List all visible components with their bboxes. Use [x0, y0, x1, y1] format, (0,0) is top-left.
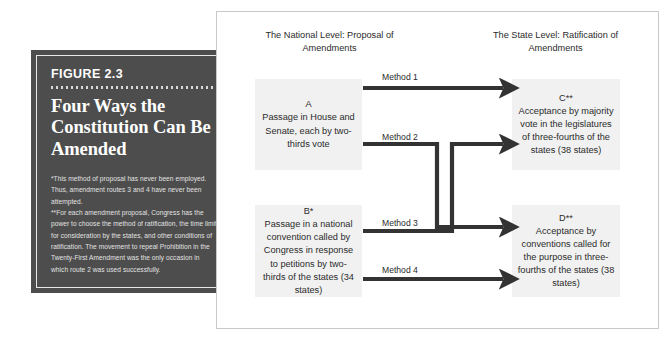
method-3-label: Method 3 — [382, 218, 418, 228]
figure-callout: FIGURE 2.3 Four Ways the Constitution Ca… — [31, 50, 238, 293]
box-a-text: Passage in House and Senate, each by two… — [262, 112, 354, 148]
box-a-letter: A — [259, 98, 358, 111]
box-c-letter: C** — [516, 92, 616, 105]
method-2-label: Method 2 — [382, 132, 418, 142]
figure-divider — [51, 86, 218, 89]
figure-number: FIGURE 2.3 — [51, 68, 218, 82]
figure-title: Four Ways the Constitution Can Be Amende… — [51, 96, 218, 160]
figure-note-single-asterisk: *This method of proposal has never been … — [51, 173, 218, 207]
box-d-text: Acceptance by conventions called for the… — [518, 226, 615, 289]
column-heading-national: The National Level: Proposal of Amendmen… — [247, 29, 412, 55]
figure-callout-inner: FIGURE 2.3 Four Ways the Constitution Ca… — [36, 55, 233, 288]
process-box-b: B* Passage in a national convention call… — [255, 205, 362, 297]
box-c-text: Acceptance by majority vote in the legis… — [519, 106, 614, 155]
box-b-text: Passage in a national convention called … — [263, 219, 354, 295]
process-box-d: D** Acceptance by conventions called for… — [512, 205, 620, 297]
method-1-label: Method 1 — [382, 72, 418, 82]
column-heading-state: The State Level: Ratification of Amendme… — [473, 29, 638, 55]
figure-screenshot: FIGURE 2.3 Four Ways the Constitution Ca… — [0, 0, 668, 338]
box-b-letter: B* — [259, 205, 358, 218]
figure-note-double-asterisk: **For each amendment proposal, Congress … — [51, 207, 218, 275]
process-box-a: A Passage in House and Senate, each by t… — [255, 79, 362, 170]
process-box-c: C** Acceptance by majority vote in the l… — [512, 79, 620, 170]
box-d-letter: D** — [516, 212, 616, 225]
method-4-label: Method 4 — [382, 265, 418, 275]
